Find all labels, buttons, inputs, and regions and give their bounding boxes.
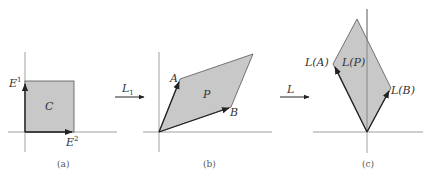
label-B: B bbox=[230, 107, 238, 118]
label-C: C bbox=[45, 101, 53, 112]
panel-a bbox=[8, 52, 117, 152]
label-P: P bbox=[203, 89, 210, 100]
label-E1: E1 bbox=[9, 77, 22, 89]
image-parallelogram-LP bbox=[333, 19, 391, 132]
label-LA: L(A) bbox=[305, 57, 329, 68]
diagram-canvas bbox=[0, 0, 428, 178]
label-LB: L(B) bbox=[391, 85, 415, 96]
panel-c bbox=[313, 9, 423, 153]
label-L1: L1 bbox=[122, 83, 134, 97]
caption-b: (b) bbox=[203, 160, 216, 169]
label-A: A bbox=[170, 73, 178, 84]
caption-c: (c) bbox=[362, 160, 374, 169]
label-E2: E2 bbox=[66, 136, 79, 148]
panel-b bbox=[143, 52, 272, 152]
label-LP: L(P) bbox=[342, 57, 365, 68]
caption-a: (a) bbox=[57, 160, 69, 169]
label-L: L bbox=[287, 84, 294, 95]
